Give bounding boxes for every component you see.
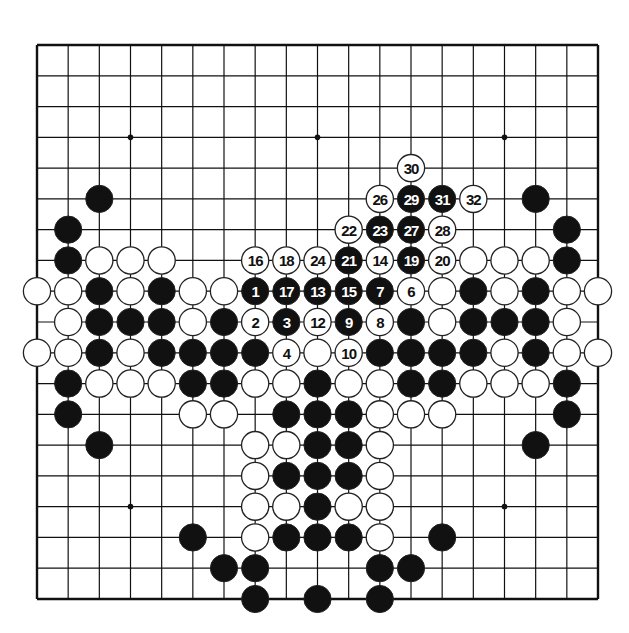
white-stone-circle [273,370,300,397]
black-stone-circle [429,524,456,551]
white-stone [522,370,549,397]
white-stone-circle [179,401,206,428]
black-stone [397,339,424,366]
white-stone-circle [273,493,300,520]
white-stone-circle [584,278,611,305]
white-stone [366,370,393,397]
white-stone [429,308,456,335]
white-stone-circle [23,278,50,305]
black-stone-circle [522,432,549,459]
black-stone [491,308,518,335]
black-stone [397,370,424,397]
black-stone [86,432,113,459]
black-stone-circle [397,370,424,397]
move-number: 30 [404,160,419,177]
white-stone-circle [242,432,269,459]
black-stone-circle [55,247,82,274]
black-stone-circle [86,308,113,335]
black-stone-circle [179,339,206,366]
move-number: 28 [435,222,450,239]
white-stone-circle [179,308,206,335]
white-stone-circle [117,370,144,397]
white-stone [366,462,393,489]
white-stone [148,247,175,274]
move-number: 12 [310,314,325,331]
black-stone [522,339,549,366]
black-stone-circle [304,462,331,489]
black-stone [335,401,362,428]
white-stone [491,339,518,366]
move-number: 18 [279,252,294,269]
black-stone [366,555,393,582]
white-stone-circle [210,278,237,305]
black-stone [429,370,456,397]
black-stone-circle [429,339,456,366]
white-stone-circle [366,401,393,428]
white-stone [491,247,518,274]
white-stone-circle [397,401,424,428]
black-stone [366,339,393,366]
star-point [502,135,508,141]
white-stone-circle [584,339,611,366]
black-stone-circle [242,339,269,366]
black-stone [553,247,580,274]
white-stone [553,278,580,305]
star-point [315,135,321,141]
move-number: 21 [341,252,356,269]
black-stone-circle [397,308,424,335]
black-stone [55,247,82,274]
white-stone-move-22: 22 [335,216,362,243]
black-stone-circle [148,308,175,335]
move-number: 26 [372,191,387,208]
black-stone-circle [86,339,113,366]
go-board: 3026293132222327281618242114192011713157… [0,0,629,633]
black-stone [210,555,237,582]
white-stone [584,278,611,305]
black-stone-circle [304,585,331,612]
black-stone-circle [117,308,144,335]
white-stone-circle [522,247,549,274]
black-stone [522,185,549,212]
black-stone-circle [397,555,424,582]
black-stone [242,555,269,582]
white-stone-circle [148,247,175,274]
black-stone-circle [522,278,549,305]
black-stone-circle [522,339,549,366]
black-stone [522,432,549,459]
black-stone-circle [429,370,456,397]
black-stone-move-15: 15 [335,278,362,305]
white-stone [366,524,393,551]
black-stone [55,401,82,428]
black-stone-circle [522,308,549,335]
black-stone-circle [553,401,580,428]
black-stone-move-1: 1 [242,278,269,305]
move-number: 22 [341,222,356,239]
black-stone-circle [335,401,362,428]
black-stone [304,493,331,520]
white-stone-circle [491,370,518,397]
white-stone-circle [366,524,393,551]
white-stone-circle [491,247,518,274]
white-stone [55,308,82,335]
white-stone [117,247,144,274]
move-number: 9 [345,314,353,331]
white-stone-circle [553,308,580,335]
black-stone-circle [242,555,269,582]
black-stone-circle [335,524,362,551]
white-stone [335,493,362,520]
black-stone-circle [55,370,82,397]
move-number: 3 [283,314,291,331]
black-stone-circle [86,278,113,305]
white-stone [429,401,456,428]
black-stone [86,308,113,335]
white-stone [242,370,269,397]
black-stone-move-17: 17 [273,278,300,305]
black-stone [522,308,549,335]
black-stone [273,524,300,551]
white-stone [117,339,144,366]
black-stone [553,401,580,428]
black-stone-circle [460,308,487,335]
white-stone-move-26: 26 [366,185,393,212]
white-stone [366,432,393,459]
white-stone-circle [242,493,269,520]
